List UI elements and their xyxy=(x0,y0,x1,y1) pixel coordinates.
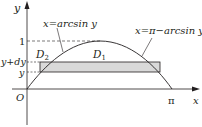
region-label-d1: D1 xyxy=(92,48,106,62)
x-axis-label: x xyxy=(193,95,199,106)
leader-right xyxy=(142,38,152,56)
pi-label: π xyxy=(168,95,175,106)
tick-label-1: 1 xyxy=(19,36,25,47)
curve-label-pi-minus-arcsin: x=π−arcsin y xyxy=(135,25,202,36)
curve-label-arcsin: x=arcsin y xyxy=(43,18,97,29)
y-axis-arrow-icon xyxy=(25,1,30,9)
arcsin-region-diagram: y x O π 1 y+dy y D2 D1 x=arcsin y x=π−ar… xyxy=(0,0,202,127)
shaded-strip xyxy=(40,62,160,72)
leader-left xyxy=(57,28,63,52)
y-axis-label: y xyxy=(13,2,21,15)
x-axis-arrow-icon xyxy=(192,87,200,92)
region-label-d2: D2 xyxy=(35,48,49,62)
origin-label: O xyxy=(16,92,24,103)
tick-label-y-plus-dy: y+dy xyxy=(0,56,26,67)
tick-label-y: y xyxy=(18,67,25,78)
